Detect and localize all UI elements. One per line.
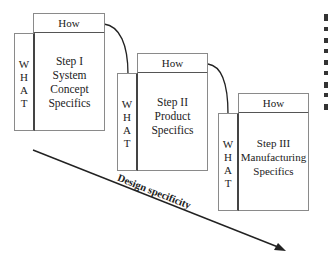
text-fragment bbox=[324, 93, 328, 97]
step-2-how-header: How bbox=[137, 53, 208, 74]
text-fragment bbox=[324, 60, 328, 65]
step-2-how-label: How bbox=[162, 57, 183, 69]
text-fragment bbox=[324, 27, 328, 31]
text-fragment bbox=[324, 14, 328, 21]
text-fragment bbox=[324, 38, 328, 43]
step-3-title: Step III bbox=[239, 136, 308, 150]
what-letter: W bbox=[118, 98, 136, 111]
arrow-head-icon bbox=[274, 243, 286, 251]
text-fragment bbox=[324, 49, 328, 53]
text-fragment bbox=[324, 82, 328, 88]
step-1-title: Step I bbox=[35, 54, 104, 68]
text-fragment bbox=[324, 104, 328, 110]
what-letter: A bbox=[219, 164, 237, 177]
step-1-how-label: How bbox=[58, 17, 79, 29]
what-letter: A bbox=[15, 84, 33, 97]
what-letter: H bbox=[118, 111, 136, 124]
step-1-content: Step I System Concept Specifics bbox=[35, 33, 105, 131]
step-1-line: Specifics bbox=[35, 96, 104, 110]
step-3-how-header: How bbox=[238, 93, 309, 114]
step-3-line: Manufacturing bbox=[239, 150, 308, 164]
step-3-content: Step III Manufacturing Specifics bbox=[239, 113, 309, 211]
connector-curve-1-2 bbox=[104, 24, 128, 74]
text-fragment bbox=[324, 71, 328, 75]
connector-curve-2-3 bbox=[208, 64, 228, 114]
what-letter: W bbox=[219, 138, 237, 151]
what-letter: T bbox=[118, 137, 136, 150]
what-letter: W bbox=[15, 58, 33, 71]
step-2-title: Step II bbox=[138, 95, 207, 109]
what-letter: A bbox=[118, 124, 136, 137]
step-3-line: Specifics bbox=[239, 164, 308, 178]
what-letter: T bbox=[15, 97, 33, 110]
step-3-how-label: How bbox=[263, 97, 284, 109]
step-2-content: Step II Product Specifics bbox=[138, 73, 208, 171]
step-1-how-header: How bbox=[33, 13, 105, 34]
step-1-line: System bbox=[35, 68, 104, 82]
step-3-what-column: W H A T bbox=[218, 113, 239, 211]
step-2-line: Product bbox=[138, 109, 207, 123]
what-letter: T bbox=[219, 177, 237, 190]
step-2-what-column: W H A T bbox=[117, 73, 138, 171]
what-letter: H bbox=[15, 71, 33, 84]
step-2-line: Specifics bbox=[138, 123, 207, 137]
what-letter: H bbox=[219, 151, 237, 164]
step-1-line: Concept bbox=[35, 82, 104, 96]
step-1-what-column: W H A T bbox=[14, 33, 35, 131]
